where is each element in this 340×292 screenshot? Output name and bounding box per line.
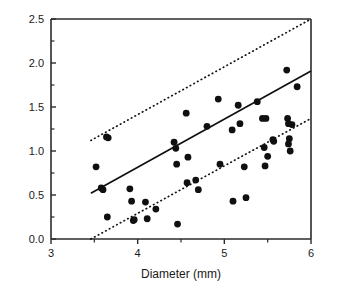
data-point — [173, 161, 180, 168]
data-point — [270, 138, 277, 145]
data-point — [184, 179, 191, 186]
data-point — [172, 145, 179, 152]
data-point — [241, 163, 248, 170]
data-point — [287, 148, 294, 155]
data-point — [294, 83, 301, 90]
data-point — [289, 121, 296, 128]
y-tick-label: 0.0 — [29, 233, 44, 245]
data-point — [171, 139, 178, 146]
data-point — [142, 199, 149, 206]
y-tick-label: 1.5 — [29, 101, 44, 113]
data-point — [105, 134, 112, 141]
x-axis-title: Diameter (mm) — [141, 267, 221, 281]
data-point — [254, 98, 261, 105]
data-point — [192, 177, 199, 184]
data-point — [174, 221, 181, 228]
data-point — [237, 120, 244, 127]
y-tick-label: 2.0 — [29, 57, 44, 69]
data-point — [152, 206, 159, 213]
y-tick-label: 0.5 — [29, 189, 44, 201]
data-point — [229, 126, 236, 133]
x-tick-label: 6 — [308, 247, 314, 259]
plot-canvas: 3456 0.00.51.01.52.02.5 Diameter (mm) — [0, 0, 340, 292]
data-point — [195, 186, 202, 193]
data-point — [261, 144, 268, 151]
data-point — [217, 161, 224, 168]
x-tick-label: 5 — [221, 247, 227, 259]
data-point — [264, 153, 271, 160]
data-point — [262, 163, 269, 170]
data-point — [230, 198, 237, 205]
scatter-plot-figure: 3456 0.00.51.01.52.02.5 Diameter (mm) — [0, 0, 340, 292]
data-point — [100, 186, 107, 193]
data-point — [144, 215, 151, 222]
x-tick-label: 4 — [135, 247, 141, 259]
data-point — [128, 198, 135, 205]
data-point — [104, 214, 111, 221]
data-point — [204, 123, 211, 130]
x-tick-label: 3 — [48, 247, 54, 259]
data-point — [183, 110, 190, 117]
data-point — [185, 154, 192, 161]
y-tick-label: 1.0 — [29, 145, 44, 157]
data-point — [243, 194, 250, 201]
data-point — [263, 115, 270, 122]
data-point — [126, 185, 133, 192]
data-point — [235, 102, 242, 109]
data-point — [283, 67, 290, 74]
y-tick-label: 2.5 — [29, 13, 44, 25]
data-point — [215, 96, 222, 103]
data-point — [285, 141, 292, 148]
data-point — [131, 216, 138, 223]
data-point — [93, 163, 100, 170]
